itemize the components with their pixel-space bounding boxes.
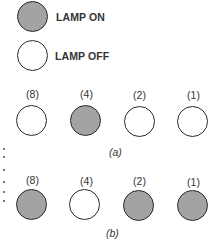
legend-lamp-on — [17, 1, 48, 32]
scan-artifact — [3, 169, 5, 171]
caption-b: (b) — [106, 227, 119, 239]
scan-artifact — [3, 156, 5, 158]
lamp-a-2 — [124, 106, 155, 137]
scan-artifact — [3, 148, 5, 150]
lamp-b-8 — [16, 189, 47, 220]
lamp-a-4 — [70, 105, 101, 136]
legend-on-label: LAMP ON — [56, 11, 105, 23]
weight-label-8: (8) — [17, 174, 48, 186]
lamp-b-1 — [177, 190, 208, 221]
weight-label-4: (4) — [71, 175, 102, 187]
legend-off-label: LAMP OFF — [55, 50, 109, 62]
scan-artifact — [3, 191, 5, 193]
lamp-a-1 — [177, 106, 208, 137]
scan-artifact — [3, 200, 5, 202]
scan-artifact — [3, 181, 5, 183]
weight-label-4: (4) — [71, 88, 102, 100]
lamp-b-2 — [123, 190, 154, 221]
weight-label-1: (1) — [178, 89, 209, 101]
weight-label-1: (1) — [178, 176, 209, 188]
lamp-a-8 — [16, 105, 47, 136]
caption-a: (a) — [109, 146, 122, 158]
legend-lamp-off — [17, 40, 48, 71]
lamp-b-4 — [69, 189, 100, 220]
weight-label-2: (2) — [124, 89, 155, 101]
weight-label-8: (8) — [17, 88, 48, 100]
weight-label-2: (2) — [124, 175, 155, 187]
